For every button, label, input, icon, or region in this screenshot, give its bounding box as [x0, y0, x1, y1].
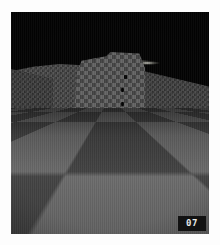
level-counter-badge[interactable]: 07	[178, 216, 206, 231]
dark-opening-icon	[121, 102, 124, 106]
screenshot-root: 07	[0, 0, 220, 245]
dark-opening-icon	[121, 88, 124, 92]
level-counter-value: 07	[186, 219, 198, 228]
game-viewport[interactable]: 07	[11, 12, 209, 234]
dark-opening-icon	[124, 75, 127, 79]
